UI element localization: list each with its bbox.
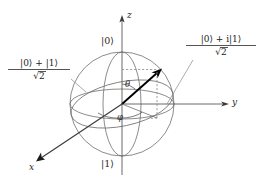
theta-angle-label: θ — [125, 80, 130, 89]
callout-plus-numerator: |0⟩ + |1⟩ — [8, 58, 70, 69]
bloch-sphere-figure: z y x |0⟩ |1⟩ θ φ |0⟩ + |1⟩ √2 |0⟩ + i|1… — [0, 0, 259, 184]
callout-plus-i-denominator: √2 — [186, 46, 256, 57]
x-axis-label: x — [29, 163, 34, 172]
z-axis-label: z — [127, 11, 132, 20]
x-axis-arrowhead — [36, 153, 45, 162]
callout-plus-i-radicand: 2 — [220, 47, 228, 57]
bloch-sphere-drawing — [0, 0, 259, 184]
callout-plus-i-numerator: |0⟩ + i|1⟩ — [186, 34, 256, 45]
callout-plus-radicand: 2 — [38, 71, 46, 81]
north-pole-label: |0⟩ — [101, 36, 114, 46]
x-axis-line — [41, 104, 122, 158]
y-axis-label: y — [232, 98, 237, 107]
phi-angle-label: φ — [117, 113, 123, 122]
south-pole-label: |1⟩ — [101, 159, 114, 169]
callout-plus-denominator: √2 — [8, 70, 70, 81]
right-callout-leader — [167, 60, 193, 104]
callout-plus-state: |0⟩ + |1⟩ √2 — [8, 58, 70, 81]
callout-plus-i-state: |0⟩ + i|1⟩ √2 — [186, 34, 256, 57]
dashed-equatorial-projection — [122, 104, 157, 118]
